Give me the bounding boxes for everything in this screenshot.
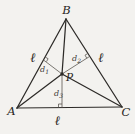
side-length-label-bottom: ℓ <box>55 113 61 128</box>
point-p-label: P <box>65 71 74 83</box>
vertex-label-b: B <box>61 3 70 17</box>
triangle-diagram: B A C P ℓ ℓ ℓ d1 d2 d3 <box>0 0 135 134</box>
side-ac <box>17 107 122 108</box>
distance-label-d1: d1 <box>40 65 49 75</box>
vertex-label-a: A <box>6 104 15 118</box>
vertex-label-c: C <box>122 105 131 119</box>
side-length-label-left: ℓ <box>30 50 36 65</box>
right-angle-mark-d1 <box>45 57 48 62</box>
segment-bp <box>62 19 66 74</box>
distance-label-d2-sub: 2 <box>76 57 81 64</box>
side-bc <box>66 19 122 107</box>
point-p-dot <box>60 72 63 75</box>
distance-label-d2: d2 <box>72 54 81 64</box>
distance-label-d3-sub: 3 <box>59 92 63 99</box>
distance-label-d1-sub: 1 <box>45 68 49 75</box>
side-length-label-right: ℓ <box>98 50 104 65</box>
